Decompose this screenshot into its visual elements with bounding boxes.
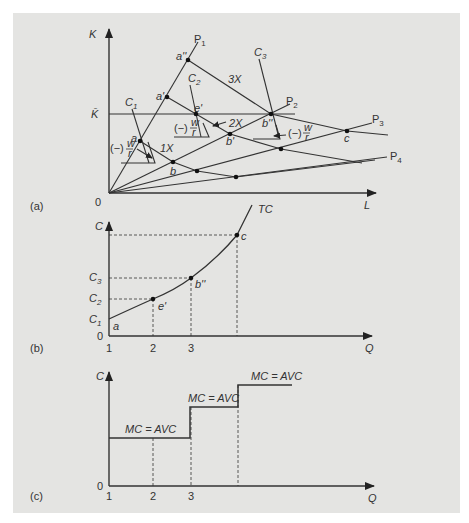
c-axis-label-b: C xyxy=(95,220,103,232)
panel-a xyxy=(109,29,388,193)
k-bar-label: K̄ xyxy=(91,108,99,120)
q-axis-label-b: Q xyxy=(365,342,374,354)
svg-text:(−): (−) xyxy=(110,142,124,154)
point-label-c: c xyxy=(344,132,350,144)
tick-q3-c: 3 xyxy=(188,490,194,502)
k-axis-label: K xyxy=(89,28,97,40)
tc-point-c xyxy=(235,233,240,238)
tick-q2-b: 2 xyxy=(150,342,156,354)
svg-text:(−): (−) xyxy=(174,122,188,134)
panel-a-points xyxy=(138,58,350,180)
point-label-b-double-prime: b'' xyxy=(262,117,273,129)
tick-c1: C1 xyxy=(89,313,101,328)
isoquant-label-1x: 1X xyxy=(160,142,174,154)
point-p4-1x xyxy=(234,175,239,180)
tc-label: TC xyxy=(258,203,273,215)
tc-point-e-prime xyxy=(151,297,156,302)
slope-label-a: (−) w r xyxy=(110,137,136,159)
point-b-double-prime xyxy=(269,112,274,117)
production-cost-diagram: K L 0 (a) K̄ P1 P2 P3 P4 C1 C2 C3 1X 2X … xyxy=(0,0,469,523)
point-p3-1x xyxy=(195,169,200,174)
point-a xyxy=(138,139,143,144)
point-b xyxy=(171,160,176,165)
tick-q3-b: 3 xyxy=(188,342,194,354)
tick-c2: C2 xyxy=(89,292,102,307)
tick-q1-c: 1 xyxy=(106,490,112,502)
ray-label-p4: P4 xyxy=(390,150,402,165)
panel-b xyxy=(109,205,372,336)
tc-point-b-double-prime xyxy=(189,276,194,281)
isocost-label-c3: C3 xyxy=(254,46,267,61)
point-label-e-prime: e' xyxy=(194,102,203,114)
isocost-label-c1: C1 xyxy=(125,96,137,111)
point-p3-2x xyxy=(279,147,284,152)
c-axis-label-c: C xyxy=(96,370,104,382)
step-label-2: MC = AVC xyxy=(188,392,239,404)
point-label-b: b xyxy=(170,165,176,177)
slope-arrow-b xyxy=(274,135,286,136)
svg-text:(−): (−) xyxy=(288,127,302,139)
point-label-a-double-prime: a'' xyxy=(176,50,187,62)
panel-tag-c: (c) xyxy=(30,490,43,502)
tick-q1-b: 1 xyxy=(106,342,112,354)
tick-q2-c: 2 xyxy=(150,490,156,502)
isoquant-label-2x: 2X xyxy=(228,117,243,129)
tick-c3: C3 xyxy=(89,271,102,286)
point-label-a-prime: a' xyxy=(156,90,165,102)
point-a-prime xyxy=(165,95,170,100)
ray-p1 xyxy=(109,42,198,193)
tc-curve xyxy=(109,205,252,319)
tc-point-label-c: c xyxy=(241,230,247,242)
q-axis-label-c: Q xyxy=(368,492,377,504)
isoquant-2x-arrow xyxy=(213,122,226,126)
isocost-label-c2: C2 xyxy=(188,72,201,87)
step-label-1: MC = AVC xyxy=(125,423,176,435)
origin-label-a: 0 xyxy=(95,196,101,208)
tc-point-label-b-double-prime: b'' xyxy=(195,278,206,290)
isoquant-label-3x: 3X xyxy=(228,73,242,85)
tc-point-label-e-prime: e' xyxy=(158,300,167,312)
l-axis-label: L xyxy=(364,199,370,211)
panel-tag-b: (b) xyxy=(30,342,43,354)
panel-b-labels: C Q 0 (b) TC C1 C2 C3 1 2 3 a e' b'' c xyxy=(30,203,374,354)
step-label-3: MC = AVC xyxy=(251,370,302,382)
ray-label-p2: P2 xyxy=(286,95,298,110)
point-label-b-prime: b' xyxy=(226,135,235,147)
panel-c-labels: C Q 0 (c) 1 2 3 MC = AVC MC = AVC MC = A… xyxy=(30,370,377,504)
tc-point-label-a: a xyxy=(113,320,119,332)
origin-label-b: 0 xyxy=(97,330,103,342)
slope-label-e: (−) w r xyxy=(174,116,200,138)
origin-label-c: 0 xyxy=(97,480,103,492)
ray-label-p3: P3 xyxy=(372,113,384,128)
panel-tag-a: (a) xyxy=(30,200,43,212)
panel-a-labels: K L 0 (a) K̄ P1 P2 P3 P4 C1 C2 C3 1X 2X … xyxy=(30,28,402,212)
point-a-double-prime xyxy=(186,58,191,63)
panel-b-points xyxy=(151,233,240,302)
